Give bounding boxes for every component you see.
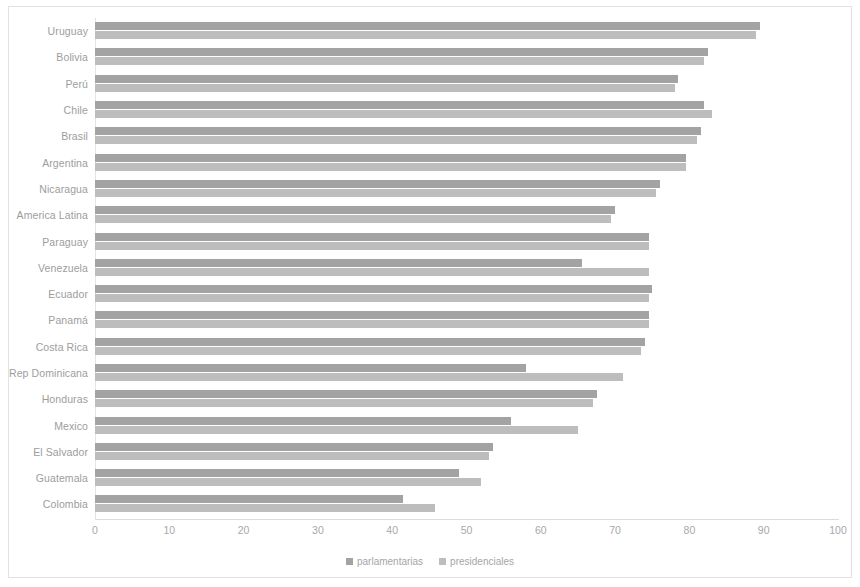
bar-parlamentarias [95, 180, 660, 188]
bar-presidenciales [95, 294, 649, 302]
bar-presidenciales [95, 31, 756, 39]
value-tick-label: 70 [609, 524, 621, 536]
value-tick-label: 40 [386, 524, 398, 536]
category-label: Guatemala [36, 472, 88, 484]
category-label: Honduras [42, 393, 88, 405]
bar-group [95, 285, 838, 303]
category-label: El Salvador [33, 446, 88, 458]
bar-group [95, 259, 838, 277]
bar-parlamentarias [95, 233, 649, 241]
bar-presidenciales [95, 136, 697, 144]
category-label: Venezuela [38, 262, 88, 274]
bar-group [95, 338, 838, 356]
bar-group [95, 495, 838, 513]
bar-parlamentarias [95, 469, 459, 477]
value-tick-label: 100 [829, 524, 847, 536]
bar-parlamentarias [95, 101, 704, 109]
category-label: Colombia [43, 498, 88, 510]
bar-presidenciales [95, 452, 489, 460]
bar-group [95, 417, 838, 435]
value-axis-ticks: 0102030405060708090100 [95, 524, 838, 542]
bar-presidenciales [95, 215, 611, 223]
bar-parlamentarias [95, 259, 582, 267]
category-label: Uruguay [48, 25, 88, 37]
bar-presidenciales [95, 57, 704, 65]
bar-parlamentarias [95, 22, 760, 30]
bar-group [95, 469, 838, 487]
bar-presidenciales [95, 189, 656, 197]
bar-presidenciales [95, 478, 481, 486]
value-tick-label: 80 [684, 524, 696, 536]
bar-group [95, 101, 838, 119]
chart-row: Rep Dominicana [95, 360, 838, 386]
value-tick-label: 20 [238, 524, 250, 536]
chart-row: America Latina [95, 202, 838, 228]
chart-row: Paraguay [95, 228, 838, 254]
bar-presidenciales [95, 347, 641, 355]
value-tick-label: 50 [461, 524, 473, 536]
bar-parlamentarias [95, 206, 615, 214]
chart-row: Venezuela [95, 255, 838, 281]
bar-presidenciales [95, 320, 649, 328]
value-tick-label: 0 [92, 524, 98, 536]
bar-parlamentarias [95, 48, 708, 56]
legend-item-presidenciales[interactable]: presidenciales [439, 556, 514, 567]
bar-group [95, 233, 838, 251]
category-label: Ecuador [48, 288, 88, 300]
category-label: Perú [65, 78, 88, 90]
bar-parlamentarias [95, 364, 526, 372]
legend-swatch-icon [439, 558, 446, 565]
bar-group [95, 22, 838, 40]
plot-area: UruguayBoliviaPerúChileBrasilArgentinaNi… [95, 18, 838, 518]
value-tick-label: 30 [312, 524, 324, 536]
bar-group [95, 206, 838, 224]
chart-row: Honduras [95, 386, 838, 412]
chart-row: Nicaragua [95, 176, 838, 202]
legend-swatch-icon [346, 558, 353, 565]
bar-parlamentarias [95, 311, 649, 319]
bar-group [95, 443, 838, 461]
bar-parlamentarias [95, 495, 403, 503]
category-label: Brasil [61, 130, 88, 142]
category-label: Chile [64, 104, 88, 116]
bar-presidenciales [95, 399, 593, 407]
value-tick-label: 60 [535, 524, 547, 536]
bar-parlamentarias [95, 417, 511, 425]
category-label: Bolivia [56, 51, 88, 63]
bar-presidenciales [95, 163, 686, 171]
bar-group [95, 390, 838, 408]
bar-presidenciales [95, 426, 578, 434]
bar-presidenciales [95, 268, 649, 276]
bar-group [95, 48, 838, 66]
category-label: Nicaragua [39, 183, 88, 195]
chart-legend: parlamentariaspresidenciales [0, 556, 860, 567]
category-axis-line [95, 519, 839, 520]
bar-presidenciales [95, 242, 649, 250]
category-label: Rep Dominicana [9, 367, 88, 379]
value-tick-label: 90 [758, 524, 770, 536]
legend-label: presidenciales [450, 556, 514, 567]
bar-parlamentarias [95, 154, 686, 162]
bar-presidenciales [95, 373, 623, 381]
chart-row: Chile [95, 97, 838, 123]
bar-group [95, 364, 838, 382]
bar-parlamentarias [95, 127, 701, 135]
bar-presidenciales [95, 504, 435, 512]
bar-group [95, 154, 838, 172]
chart-row: Ecuador [95, 281, 838, 307]
bar-group [95, 180, 838, 198]
category-label: Costa Rica [36, 341, 88, 353]
category-label: Paraguay [42, 236, 88, 248]
bar-group [95, 127, 838, 145]
legend-item-parlamentarias[interactable]: parlamentarias [346, 556, 423, 567]
category-label: America Latina [17, 209, 88, 221]
bar-presidenciales [95, 110, 712, 118]
bar-group [95, 311, 838, 329]
bar-parlamentarias [95, 285, 652, 293]
chart-row: Argentina [95, 149, 838, 175]
bar-parlamentarias [95, 75, 678, 83]
chart-row: Bolivia [95, 44, 838, 70]
chart-row: Brasil [95, 123, 838, 149]
bar-parlamentarias [95, 390, 597, 398]
bar-parlamentarias [95, 443, 493, 451]
